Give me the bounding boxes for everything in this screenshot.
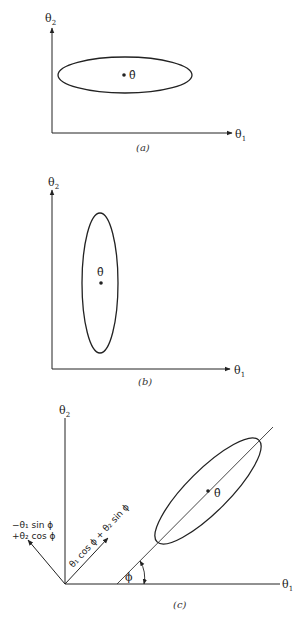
- angle-arc: [140, 561, 145, 584]
- estimate-label: θ̂: [97, 266, 104, 279]
- estimate-point: [122, 73, 126, 77]
- x-axis-label: θ1: [282, 578, 293, 593]
- panel-caption: (a): [136, 142, 150, 153]
- rotated-axis-2-label-line2: +θ₂ cos ϕ: [12, 531, 56, 541]
- figure-canvas: θ2 θ1 θ̂ (a) θ2 θ1 θ̂ (b) θ2 θ1 θ₁ cos ϕ…: [0, 0, 303, 620]
- panel-caption: (c): [173, 599, 187, 610]
- y-axis-label: θ2: [45, 12, 56, 27]
- rotated-axis-2-label-line1: −θ₁ sin ϕ: [12, 520, 53, 530]
- y-axis-label: θ2: [59, 404, 70, 419]
- angle-label: ϕ: [125, 571, 133, 584]
- major-axis-line: [117, 427, 273, 584]
- x-axis-label: θ1: [234, 364, 245, 379]
- estimate-point: [206, 489, 210, 493]
- panel-c: θ2 θ1 θ₁ cos ϕ + θ₂ sin ϕ −θ₁ sin ϕ +θ₂ …: [12, 404, 293, 610]
- panel-a: θ2 θ1 θ̂ (a): [45, 12, 246, 153]
- rotated-axis-1-label: θ₁ cos ϕ + θ₂ sin ϕ: [67, 502, 131, 569]
- estimate-point: [99, 281, 103, 285]
- estimate-label: θ̂: [214, 487, 221, 500]
- y-axis-label: θ2: [48, 176, 59, 191]
- panel-caption: (b): [138, 376, 152, 387]
- rotated-axis-2-arrow: [28, 540, 65, 584]
- x-axis-label: θ1: [235, 128, 246, 143]
- estimate-label: θ̂: [129, 69, 136, 82]
- panel-b: θ2 θ1 θ̂ (b): [48, 176, 245, 387]
